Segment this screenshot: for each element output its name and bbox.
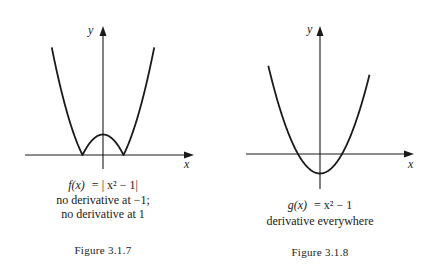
- formula-g-lhs: g(x): [288, 198, 307, 212]
- curve-g: [268, 66, 369, 174]
- figure-right: y x g(x) = x² − 1 derivative everywhere …: [246, 22, 414, 258]
- formula-g: g(x) = x² − 1: [288, 195, 352, 212]
- figure-left: y x f(x) = | x² − 1| no derivative at −1…: [25, 23, 194, 256]
- formula-f: f(x) = | x² − 1|: [68, 175, 138, 192]
- formula-f-rhs: = | x² − 1|: [92, 178, 138, 192]
- formula-g-rhs: = x² − 1: [314, 198, 352, 212]
- figure-canvas: y x f(x) = | x² − 1| no derivative at −1…: [0, 0, 442, 268]
- caption-line: no derivative at 1: [61, 207, 145, 221]
- caption-line: no derivative at −1;: [56, 193, 150, 207]
- y-axis-label: y: [87, 23, 94, 37]
- x-axis-label: x: [183, 157, 190, 171]
- y-axis-arrow-icon: [317, 26, 324, 36]
- figure-label: Figure 3.1.8: [291, 246, 348, 258]
- formula-f-lhs: f(x): [68, 178, 85, 192]
- y-axis-label: y: [306, 22, 313, 36]
- x-axis-label: x: [407, 157, 414, 171]
- figure-label: Figure 3.1.7: [74, 244, 131, 256]
- caption-line: derivative everywhere: [267, 214, 374, 228]
- y-axis-arrow-icon: [100, 26, 107, 36]
